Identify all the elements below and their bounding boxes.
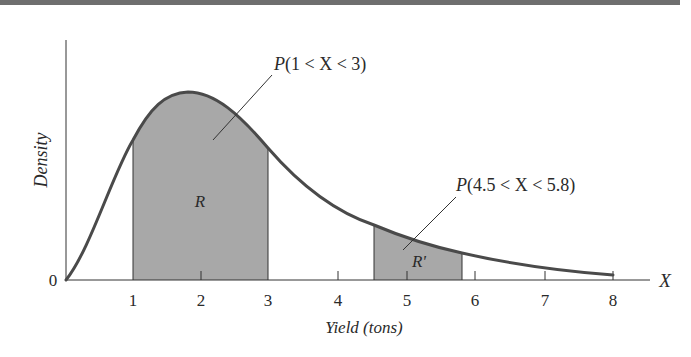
tick-label-6: 6	[471, 291, 480, 310]
tick-label-3: 3	[264, 291, 273, 310]
shaded-region-r	[133, 92, 268, 280]
x-axis-symbol: X	[658, 270, 672, 291]
region-r-prime-label: R'	[411, 252, 426, 271]
tick-label-4: 4	[334, 291, 343, 310]
tick-label-8: 8	[609, 291, 618, 310]
annotation-p-4-5-5-8: P(4.5 < X < 5.8)	[455, 175, 575, 196]
annotation-p-1-3: P(1 < X < 3)	[273, 54, 366, 75]
annotation-leader-r-prime	[403, 197, 456, 250]
tick-label-2: 2	[197, 291, 206, 310]
tick-label-5: 5	[403, 291, 412, 310]
origin-label: 0	[49, 271, 58, 290]
density-chart: 1 2 3 4 5 6 7 8 0 X Yield (tons) Density…	[0, 0, 691, 357]
tick-label-7: 7	[541, 291, 550, 310]
x-axis-label: Yield (tons)	[325, 318, 403, 337]
y-axis-label: Density	[31, 132, 51, 188]
tick-label-1: 1	[129, 291, 138, 310]
region-r-label: R	[194, 192, 206, 211]
